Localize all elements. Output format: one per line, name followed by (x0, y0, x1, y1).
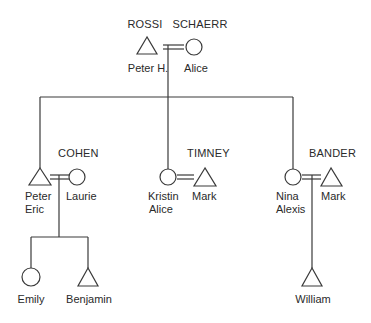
surname-schaerr: SCHAERR (172, 18, 227, 31)
bander-mark-triangle-icon (321, 168, 342, 186)
name-emily: Emily (18, 293, 45, 306)
name-kristin: Kristin (148, 190, 179, 203)
name-alice: Alice (184, 62, 208, 75)
surname-timney: TIMNEY (187, 147, 230, 160)
surname-cohen: COHEN (58, 147, 99, 160)
schaerr-alice-circle-icon (186, 39, 202, 55)
emily-circle-icon (22, 268, 40, 286)
name-mark-timney: Mark (192, 190, 216, 203)
timney-mark-triangle-icon (194, 168, 216, 186)
name-alice-2: Alice (149, 203, 173, 216)
surname-bander: BANDER (309, 147, 356, 160)
nina-circle-icon (285, 169, 301, 185)
name-eric: Eric (25, 203, 44, 216)
laurie-circle-icon (69, 169, 85, 185)
kristin-circle-icon (160, 169, 176, 185)
name-william: William (295, 293, 330, 306)
rossi-peter-triangle-icon (137, 37, 157, 54)
william-triangle-icon (302, 268, 322, 286)
name-benjamin: Benjamin (66, 293, 112, 306)
benjamin-triangle-icon (78, 268, 98, 286)
name-peter: Peter (25, 190, 51, 203)
peter-eric-triangle-icon (29, 168, 51, 185)
name-nina: Nina (276, 190, 299, 203)
name-mark-bander: Mark (321, 190, 345, 203)
name-laurie: Laurie (66, 190, 97, 203)
family-tree-diagram: ROSSI SCHAERR Peter H. Alice COHEN Peter… (0, 0, 371, 323)
surname-rossi: ROSSI (127, 18, 162, 31)
name-peter-h: Peter H. (128, 62, 168, 75)
tree-lines (0, 0, 371, 323)
name-alexis: Alexis (276, 203, 305, 216)
